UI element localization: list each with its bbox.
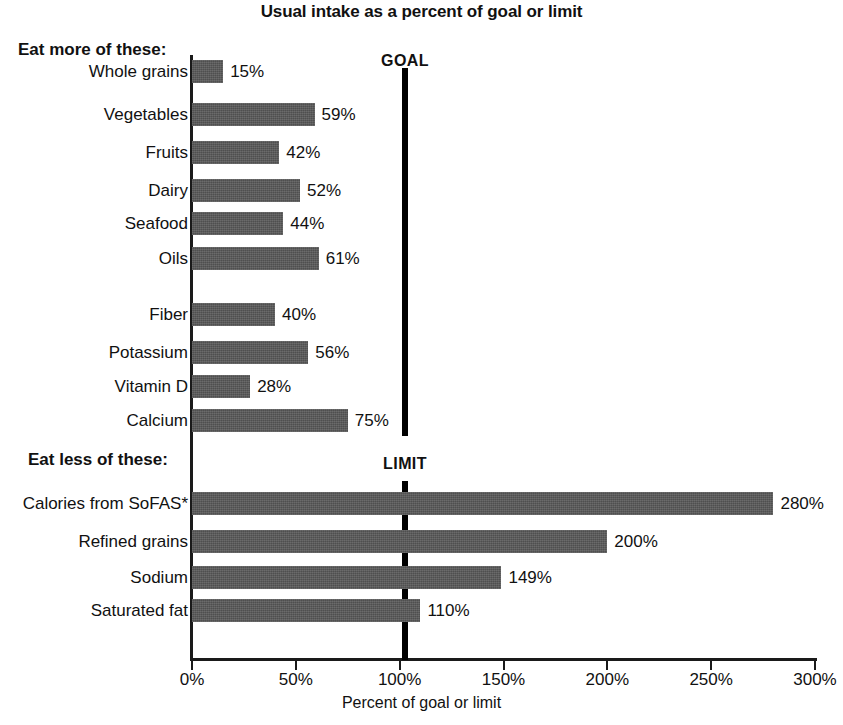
- x-axis-tick: [503, 661, 505, 670]
- x-axis-tick: [399, 661, 401, 670]
- x-axis-tick: [191, 661, 193, 670]
- x-axis-tick-label: 300%: [775, 670, 843, 690]
- bar: [192, 599, 420, 622]
- x-axis-tick: [710, 661, 712, 670]
- bar: [192, 492, 773, 515]
- bar-value-label: 40%: [282, 303, 316, 326]
- bar: [192, 566, 501, 589]
- goal-reference-line: [402, 68, 408, 436]
- x-axis-tick-label: 150%: [464, 670, 544, 690]
- limit-reference-label: LIMIT: [345, 455, 465, 473]
- x-axis-title: Percent of goal or limit: [0, 694, 843, 712]
- bar-value-label: 200%: [614, 530, 657, 553]
- bar-category-label: Sodium: [0, 566, 188, 589]
- bar-value-label: 28%: [257, 375, 291, 398]
- bar-value-label: 15%: [230, 60, 264, 83]
- bar-category-label: Saturated fat: [0, 599, 188, 622]
- x-axis-tick-label: 200%: [567, 670, 647, 690]
- bar: [192, 530, 607, 553]
- x-axis-tick: [295, 661, 297, 670]
- bar-category-label: Vitamin D: [0, 375, 188, 398]
- bar-value-label: 75%: [355, 409, 389, 432]
- x-axis-tick: [606, 661, 608, 670]
- x-axis-tick-label: 50%: [256, 670, 336, 690]
- bar-category-label: Calories from SoFAS*: [0, 492, 188, 515]
- goal-reference-label: GOAL: [345, 52, 465, 70]
- x-axis-tick-label: 250%: [671, 670, 751, 690]
- bar-value-label: 59%: [322, 103, 356, 126]
- bar-value-label: 44%: [290, 212, 324, 235]
- bar-category-label: Oils: [0, 247, 188, 270]
- bar-value-label: 42%: [286, 141, 320, 164]
- bar: [192, 179, 300, 202]
- bar: [192, 247, 319, 270]
- bar: [192, 212, 283, 235]
- bar-category-label: Potassium: [0, 341, 188, 364]
- x-axis-tick-label: 100%: [360, 670, 440, 690]
- bar-value-label: 52%: [307, 179, 341, 202]
- bar: [192, 60, 223, 83]
- bar-category-label: Whole grains: [0, 60, 188, 83]
- section-heading-eat-less: Eat less of these:: [28, 450, 168, 470]
- bar: [192, 409, 348, 432]
- bar-category-label: Dairy: [0, 179, 188, 202]
- bar-category-label: Fiber: [0, 303, 188, 326]
- bar: [192, 375, 250, 398]
- bar-category-label: Calcium: [0, 409, 188, 432]
- bar-category-label: Fruits: [0, 141, 188, 164]
- chart-root: Usual intake as a percent of goal or lim…: [0, 0, 843, 725]
- bar-value-label: 280%: [780, 492, 823, 515]
- bar-value-label: 56%: [315, 341, 349, 364]
- bar: [192, 341, 308, 364]
- bar-category-label: Refined grains: [0, 530, 188, 553]
- page-title: Usual intake as a percent of goal or lim…: [0, 2, 843, 22]
- bar-value-label: 110%: [427, 599, 469, 622]
- bar: [192, 103, 315, 126]
- bar: [192, 141, 279, 164]
- bar: [192, 303, 275, 326]
- bar-value-label: 149%: [508, 566, 551, 589]
- bar-value-label: 61%: [326, 247, 360, 270]
- x-axis-tick-label: 0%: [152, 670, 232, 690]
- x-axis-tick: [814, 661, 816, 670]
- bar-category-label: Seafood: [0, 212, 188, 235]
- bar-category-label: Vegetables: [0, 103, 188, 126]
- section-heading-eat-more: Eat more of these:: [18, 40, 166, 60]
